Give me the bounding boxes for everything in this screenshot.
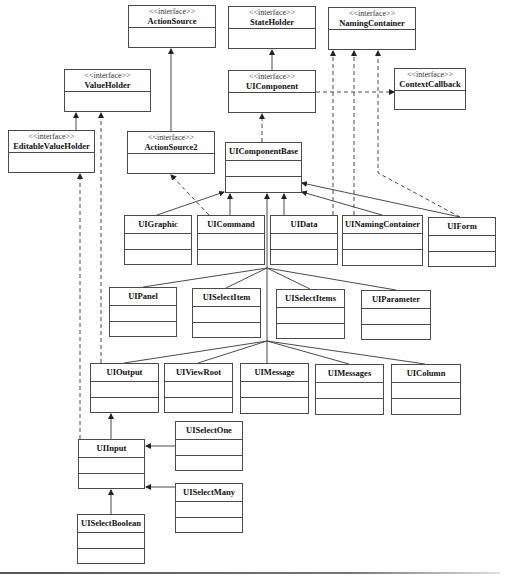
class-box-uicommand[interactable]: UICommand — [197, 215, 265, 265]
operations-compartment — [193, 322, 260, 338]
attributes-compartment — [343, 234, 422, 249]
class-header: UIPanel — [110, 288, 176, 306]
class-box-valueholder[interactable]: <<interface>> ValueHolder — [64, 69, 151, 112]
class-name: UISelectItem — [193, 292, 260, 303]
class-name: NamingContainer — [329, 18, 415, 29]
class-name: UISelectMany — [176, 487, 242, 498]
operations-compartment — [392, 398, 460, 414]
attributes-compartment — [176, 440, 242, 455]
operations-compartment — [110, 321, 176, 337]
generalization-arrow-uinamingcontainer-to-uicomponentbase — [302, 192, 382, 215]
operations-compartment — [316, 398, 383, 414]
generalization-arrow-uiviewroot-to-trunk — [198, 341, 267, 363]
class-header: UIForm — [429, 218, 495, 236]
class-name: StateHolder — [229, 17, 315, 28]
class-header: <<interface>> UIComponent — [229, 71, 315, 93]
operations-compartment — [277, 323, 344, 339]
attributes-compartment — [110, 306, 176, 321]
attributes-compartment — [128, 154, 214, 173]
class-header: <<interface>> ActionSource — [129, 6, 215, 28]
attributes-compartment — [78, 533, 144, 548]
class-name: UIMessages — [316, 368, 383, 379]
stereotype-label: <<interface>> — [395, 70, 465, 79]
class-header: UIComponentBase — [226, 143, 301, 161]
class-name: ValueHolder — [65, 80, 150, 91]
uml-class-diagram: <<interface>> ActionSource <<interface>>… — [0, 0, 505, 576]
class-box-uinamingcontainer[interactable]: UINamingContainer — [342, 215, 423, 266]
class-header: UIMessage — [241, 364, 308, 382]
bottom-divider — [0, 572, 500, 574]
class-header: UIGraphic — [125, 216, 191, 234]
class-box-uiselectmany[interactable]: UISelectMany — [175, 483, 243, 533]
class-name: ActionSource2 — [128, 142, 214, 153]
class-name: UIForm — [429, 221, 495, 232]
class-name: UISelectOne — [176, 425, 242, 436]
operations-compartment — [78, 548, 144, 564]
class-header: UIOutput — [91, 364, 158, 382]
attributes-compartment — [198, 234, 264, 249]
class-box-uimessage[interactable]: UIMessage — [240, 363, 309, 414]
attributes-compartment — [165, 382, 232, 397]
class-box-uioutput[interactable]: UIOutput — [90, 363, 159, 413]
class-box-uiselectitem[interactable]: UISelectItem — [192, 288, 261, 338]
realization-arrow-uicommand-to-actionsource2 — [171, 175, 209, 215]
class-box-contextcallback[interactable]: <<interface>> ContextCallback — [394, 68, 466, 110]
class-name: UICommand — [198, 219, 264, 230]
class-box-uidata[interactable]: UIData — [270, 215, 338, 265]
class-header: UISelectItem — [193, 289, 260, 307]
class-header: UISelectItems — [277, 290, 344, 308]
class-box-editablevalueholder[interactable]: <<interface>> EditableValueHolder — [8, 130, 95, 173]
class-header: UIParameter — [362, 291, 430, 309]
class-name: UIInput — [79, 443, 144, 454]
class-header: <<interface>> ContextCallback — [395, 69, 465, 91]
generalization-arrow-uiselectitems-to-trunk — [267, 268, 310, 289]
class-name: UISelectBoolean — [78, 518, 144, 529]
class-header: <<interface>> NamingContainer — [329, 8, 415, 30]
attributes-compartment — [395, 91, 465, 109]
class-header: UIViewRoot — [165, 364, 232, 382]
class-box-uiviewroot[interactable]: UIViewRoot — [164, 363, 233, 413]
class-box-actionsource[interactable]: <<interface>> ActionSource — [128, 5, 216, 48]
class-box-uiselectboolean[interactable]: UISelectBoolean — [77, 514, 145, 564]
class-header: UINamingContainer — [343, 216, 422, 234]
class-name: UIGraphic — [125, 219, 191, 230]
class-name: ActionSource — [129, 16, 215, 27]
class-box-uipanel[interactable]: UIPanel — [109, 287, 177, 337]
operations-compartment — [125, 249, 191, 265]
attributes-compartment — [241, 382, 308, 397]
attributes-compartment — [79, 458, 144, 473]
class-box-uigraphic[interactable]: UIGraphic — [124, 215, 192, 265]
operations-compartment — [429, 251, 495, 267]
attributes-compartment — [277, 308, 344, 323]
class-box-actionsource2[interactable]: <<interface>> ActionSource2 — [127, 131, 215, 174]
class-name: UIPanel — [110, 291, 176, 302]
attributes-compartment — [91, 382, 158, 397]
class-header: UIInput — [79, 440, 144, 458]
generalization-arrow-uioutput-to-trunk — [124, 341, 267, 363]
stereotype-label: <<interface>> — [9, 132, 94, 141]
class-box-uicolumn[interactable]: UIColumn — [391, 364, 461, 415]
attributes-compartment — [392, 383, 460, 398]
class-name: ContextCallback — [395, 79, 465, 90]
class-box-uiform[interactable]: UIForm — [428, 217, 496, 267]
class-name: EditableValueHolder — [9, 141, 94, 152]
operations-compartment — [91, 397, 158, 413]
attributes-compartment — [65, 92, 150, 111]
class-header: <<interface>> StateHolder — [229, 7, 315, 29]
class-box-uiparameter[interactable]: UIParameter — [361, 290, 431, 340]
class-box-uiselectone[interactable]: UISelectOne — [175, 421, 243, 471]
class-box-uicomponent[interactable]: <<interface>> UIComponent — [228, 70, 316, 113]
generalization-arrow-uicolumn-to-trunk — [267, 341, 425, 364]
class-name: UIOutput — [91, 367, 158, 378]
class-name: UIParameter — [362, 294, 430, 305]
class-header: UISelectOne — [176, 422, 242, 440]
attributes-compartment — [316, 383, 383, 398]
class-box-uicomponentbase[interactable]: UIComponentBase — [225, 142, 302, 193]
class-box-namingcontainer[interactable]: <<interface>> NamingContainer — [328, 7, 416, 50]
class-box-uimessages[interactable]: UIMessages — [315, 364, 384, 415]
stereotype-label: <<interface>> — [129, 7, 215, 16]
class-box-uiinput[interactable]: UIInput — [78, 439, 145, 489]
class-box-stateholder[interactable]: <<interface>> StateHolder — [228, 6, 316, 49]
class-header: UISelectBoolean — [78, 515, 144, 533]
class-box-uiselectitems[interactable]: UISelectItems — [276, 289, 345, 339]
